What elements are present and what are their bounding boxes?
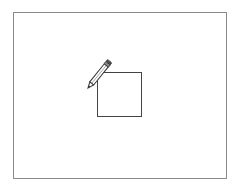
pencil-icon: Pencil tool cursor — [84, 58, 114, 92]
